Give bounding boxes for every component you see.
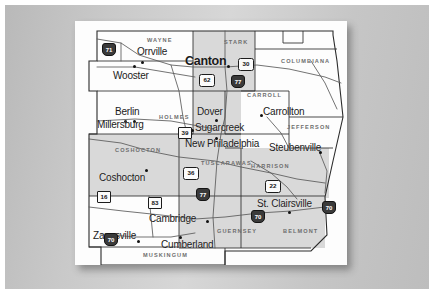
city-dot <box>133 65 136 68</box>
highway-shield-i71: 71 <box>102 43 116 56</box>
city-label-steubenville: Steubenville <box>269 143 321 153</box>
city-label-wooster: Wooster <box>113 71 149 81</box>
highway-shield-us62: 62 <box>199 74 215 87</box>
city-label-cumberland: Cumberland <box>161 240 213 250</box>
highway-shield-us30: 30 <box>238 58 254 71</box>
city-label-new-philadelphia: New Philadelphia <box>185 139 259 149</box>
highway-shield-i70-center: 70 <box>251 210 265 223</box>
highway-shield-i77-south: 77 <box>196 188 210 201</box>
city-label-orrville: Orrville <box>137 47 167 57</box>
county-label: MUSKINGUM <box>143 253 188 259</box>
highway-shield-i70-west: 70 <box>104 233 118 246</box>
highway-shield-sr83: 83 <box>148 197 162 209</box>
city-label-carrollton: Carrollton <box>263 107 304 117</box>
city-dot <box>137 240 140 243</box>
county-label: WAYNE <box>147 38 173 44</box>
city-label-cambridge: Cambridge <box>149 214 196 224</box>
city-dot <box>145 169 148 172</box>
county-label: GUERNSEY <box>217 229 257 235</box>
highway-shield-us22: 22 <box>265 180 281 193</box>
county-label: BELMONT <box>283 229 318 235</box>
city-label-coshocton: Coshocton <box>99 173 145 183</box>
county-label: JEFFERSON <box>287 125 330 131</box>
county-label: STARK <box>224 40 248 46</box>
highway-shield-sr16: 16 <box>97 191 111 203</box>
city-label-dover: Dover <box>197 107 223 117</box>
city-dot <box>288 211 291 214</box>
highway-shield-i70-east: 70 <box>322 201 336 214</box>
county-label: COLUMBIANA <box>281 59 330 65</box>
county-label: CARROLL <box>247 93 282 99</box>
map-page: WAYNE STARK COLUMBIANA HOLMES CARROLL JE… <box>75 21 347 265</box>
city-label-millersburg: Millersburg <box>97 120 144 130</box>
county-label: TUSCARAWAS <box>201 161 252 167</box>
county-label: HARRISON <box>251 164 290 170</box>
city-dot <box>206 220 209 223</box>
highway-shield-us36: 36 <box>183 167 199 180</box>
county-label: HOLMES <box>159 115 190 121</box>
city-label-sugarcreek: Sugarcreek <box>195 123 244 133</box>
highway-shield-sr39: 39 <box>178 127 192 139</box>
city-label-canton: Canton <box>185 55 226 68</box>
highway-shield-i77: 77 <box>231 75 245 88</box>
city-label-berlin: Berlin <box>115 107 139 117</box>
city-dot <box>227 65 230 68</box>
city-label-st-clairsville: St. Clairsville <box>257 199 312 209</box>
city-dot <box>141 61 144 64</box>
county-label: COSHOCTON <box>115 148 161 154</box>
slide-canvas: WAYNE STARK COLUMBIANA HOLMES CARROLL JE… <box>0 0 434 294</box>
